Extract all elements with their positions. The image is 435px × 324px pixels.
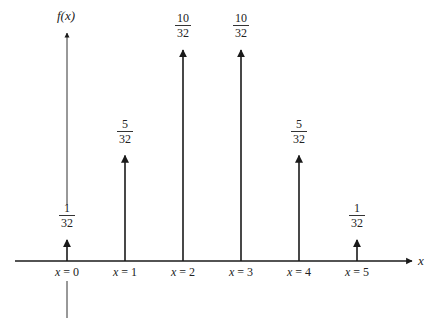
value-label: 132 <box>349 202 365 229</box>
x-tick-label: x = 1 <box>113 265 137 280</box>
value-numerator: 5 <box>121 118 129 131</box>
value-label: 1032 <box>233 12 249 39</box>
value-denominator: 32 <box>293 132 305 145</box>
value-denominator: 32 <box>177 26 189 39</box>
value-numerator: 5 <box>295 118 303 131</box>
value-denominator: 32 <box>235 26 247 39</box>
value-label: 132 <box>59 202 75 229</box>
x-axis-label: x <box>418 253 424 269</box>
value-denominator: 32 <box>351 216 363 229</box>
x-tick-label: x = 5 <box>345 265 369 280</box>
x-tick-label: x = 4 <box>287 265 311 280</box>
value-denominator: 32 <box>61 216 73 229</box>
value-numerator: 10 <box>176 12 190 25</box>
value-label: 532 <box>117 118 133 145</box>
value-numerator: 1 <box>63 202 71 215</box>
value-label: 1032 <box>175 12 191 39</box>
x-tick-label: x = 0 <box>55 265 79 280</box>
x-tick-label: x = 2 <box>171 265 195 280</box>
value-numerator: 1 <box>353 202 361 215</box>
value-denominator: 32 <box>119 132 131 145</box>
value-numerator: 10 <box>234 12 248 25</box>
stems-group <box>67 50 357 261</box>
y-axis-label: f(x) <box>57 8 75 24</box>
x-tick-label: x = 3 <box>229 265 253 280</box>
value-label: 532 <box>291 118 307 145</box>
